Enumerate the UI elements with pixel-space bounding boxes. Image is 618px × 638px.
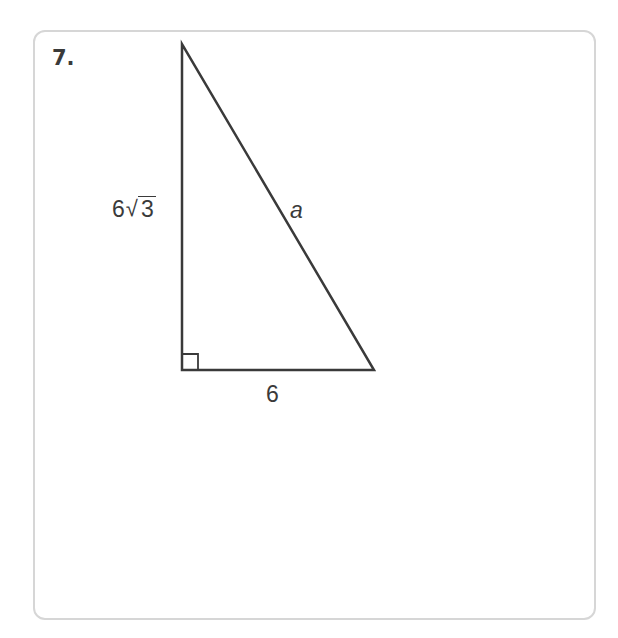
- radical-icon: √: [126, 196, 138, 222]
- vertical-leg-label: 6 √ 3: [112, 196, 156, 223]
- right-triangle-figure: [0, 0, 618, 638]
- horizontal-leg-label: 6: [266, 381, 279, 408]
- vertical-leg-coefficient: 6: [112, 196, 125, 223]
- vertical-leg-radicand: 3: [138, 196, 156, 221]
- triangle-outline: [182, 44, 374, 370]
- hypotenuse-label: a: [290, 197, 303, 224]
- right-angle-marker-icon: [182, 354, 198, 370]
